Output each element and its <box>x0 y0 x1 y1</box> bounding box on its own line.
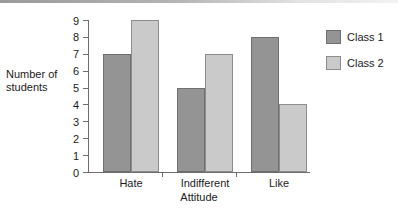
bar-indifferent-class-2 <box>205 54 233 172</box>
y-tick-1: 1 <box>83 155 88 156</box>
y-tick-7: 7 <box>83 54 88 55</box>
x-tick-1 <box>162 172 163 177</box>
legend: Class 1 Class 2 <box>326 27 384 79</box>
y-tick-9: 9 <box>83 20 88 21</box>
x-axis-label: Attitude <box>88 192 310 203</box>
y-tick-3: 3 <box>83 121 88 122</box>
y-tick-label-7: 7 <box>73 49 79 60</box>
legend-item-class-2: Class 2 <box>326 53 384 73</box>
x-axis-line <box>88 172 310 173</box>
y-tick-label-6: 6 <box>73 66 79 77</box>
y-tick-label-9: 9 <box>73 15 79 26</box>
y-tick-label-2: 2 <box>73 133 79 144</box>
legend-swatch-class-1 <box>326 30 341 44</box>
plot-area: 0123456789 HateIndifferentLike <box>88 20 310 172</box>
y-tick-label-0: 0 <box>73 167 79 178</box>
bar-hate-class-1 <box>103 54 131 172</box>
bar-like-class-2 <box>279 104 307 172</box>
y-tick-label-4: 4 <box>73 99 79 110</box>
legend-label-class-2: Class 2 <box>347 58 384 69</box>
y-tick-label-8: 8 <box>73 32 79 43</box>
y-tick-2: 2 <box>83 138 88 139</box>
x-label-hate: Hate <box>119 178 142 189</box>
scan-edge <box>0 0 398 3</box>
y-tick-8: 8 <box>83 37 88 38</box>
y-tick-6: 6 <box>83 71 88 72</box>
bar-hate-class-2 <box>131 20 159 172</box>
legend-item-class-1: Class 1 <box>326 27 384 47</box>
x-tick-2 <box>236 172 237 177</box>
bar-like-class-1 <box>251 37 279 172</box>
y-tick-5: 5 <box>83 88 88 89</box>
x-label-like: Like <box>269 178 289 189</box>
y-axis-line <box>88 20 89 172</box>
y-tick-label-3: 3 <box>73 116 79 127</box>
bar-indifferent-class-1 <box>177 88 205 172</box>
legend-swatch-class-2 <box>326 56 341 70</box>
y-tick-label-5: 5 <box>73 83 79 94</box>
x-label-indifferent: Indifferent <box>181 178 230 189</box>
y-tick-label-1: 1 <box>73 150 79 161</box>
y-tick-0: 0 <box>83 172 88 173</box>
legend-label-class-1: Class 1 <box>347 32 384 43</box>
y-tick-4: 4 <box>83 104 88 105</box>
bar-chart: Number of students 0123456789 HateIndiff… <box>0 0 398 213</box>
